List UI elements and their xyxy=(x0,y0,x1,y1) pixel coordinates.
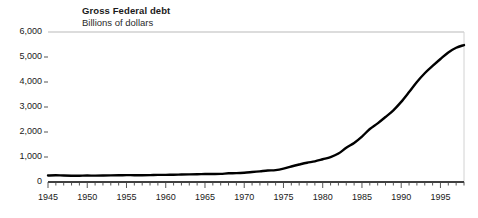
y-tick-label: 3,000 xyxy=(0,101,42,111)
x-tick-label: 1955 xyxy=(106,192,146,202)
x-tick-label: 1960 xyxy=(146,192,186,202)
y-tick-label: 1,000 xyxy=(0,151,42,161)
y-tick-label: 5,000 xyxy=(0,51,42,61)
chart-figure: Gross Federal debt Billions of dollars 6… xyxy=(0,0,478,218)
x-tick-label: 1985 xyxy=(342,192,382,202)
data-series-line xyxy=(48,45,464,176)
y-tick-label: 4,000 xyxy=(0,76,42,86)
y-tick-label: 6,000 xyxy=(0,26,42,36)
x-tick-label: 1975 xyxy=(263,192,303,202)
chart-plot-area xyxy=(0,0,478,218)
x-tick-label: 1990 xyxy=(381,192,421,202)
x-tick-label: 1995 xyxy=(420,192,460,202)
y-tick-group xyxy=(44,57,48,157)
y-tick-label: 0 xyxy=(0,176,42,186)
x-tick-label: 1945 xyxy=(28,192,68,202)
x-tick-group xyxy=(48,182,464,188)
x-tick-label: 1980 xyxy=(303,192,343,202)
y-tick-label: 2,000 xyxy=(0,126,42,136)
gridline-group xyxy=(48,32,464,182)
x-tick-label: 1965 xyxy=(185,192,225,202)
x-tick-label: 1970 xyxy=(224,192,264,202)
x-tick-label: 1950 xyxy=(67,192,107,202)
